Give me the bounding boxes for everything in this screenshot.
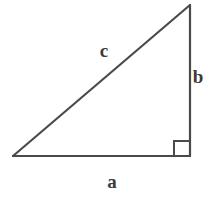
right-triangle-diagram: c b a — [0, 0, 219, 201]
side-c-label: c — [96, 41, 112, 60]
side-b-label: b — [190, 67, 206, 86]
side-a-label: a — [104, 172, 120, 191]
